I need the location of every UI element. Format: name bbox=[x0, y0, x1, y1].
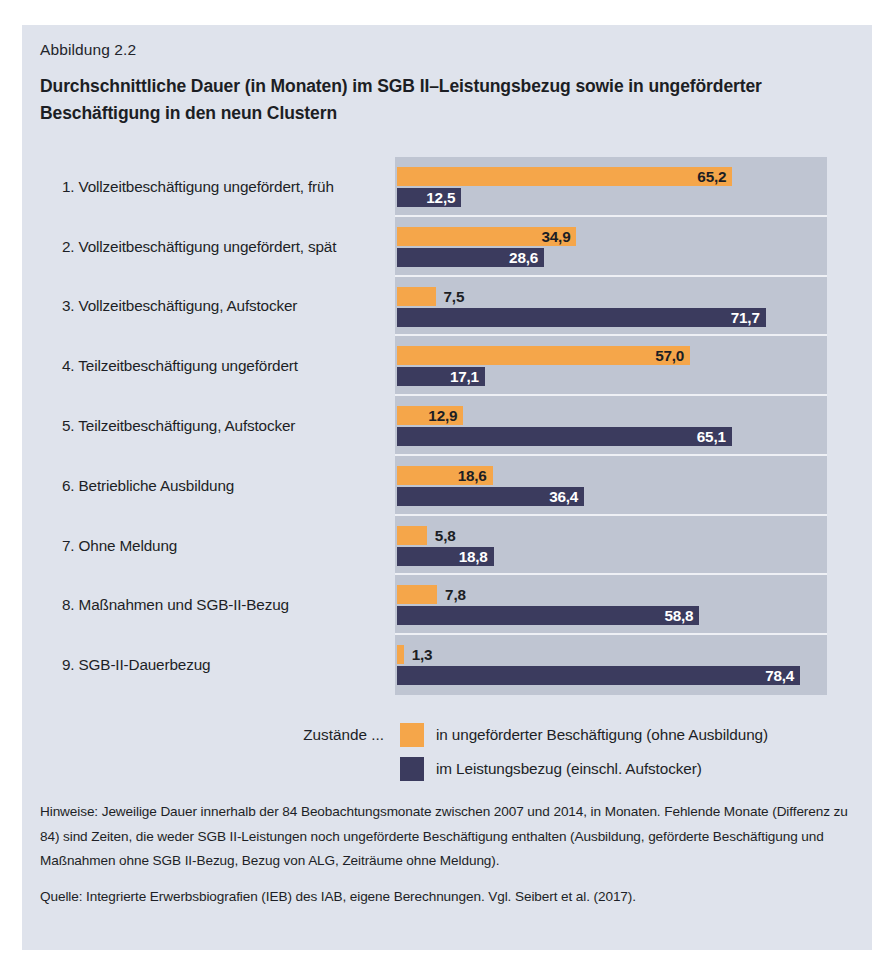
chart-row: 8. Maßnahmen und SGB-II-Bezug7,858,8 bbox=[22, 575, 872, 635]
row-bars: 57,017,1 bbox=[397, 336, 857, 396]
bar-leistungsbezug bbox=[397, 666, 800, 685]
category-label: 3. Vollzeitbeschäftigung, Aufstocker bbox=[62, 297, 387, 315]
bar-ungefoerderte-beschaeftigung bbox=[397, 167, 732, 186]
category-label: 9. SGB-II-Dauerbezug bbox=[62, 656, 387, 674]
figure-notes: Hinweise: Jeweilige Dauer innerhalb der … bbox=[40, 800, 852, 920]
bar-value-label: 65,1 bbox=[686, 427, 726, 446]
bar-ungefoerderte-beschaeftigung bbox=[397, 585, 437, 604]
figure-number: Abbildung 2.2 bbox=[40, 41, 136, 59]
bar-value-label: 12,5 bbox=[415, 188, 455, 207]
chart-row: 3. Vollzeitbeschäftigung, Aufstocker7,57… bbox=[22, 277, 872, 337]
legend-label-ungefoerderte-beschaeftigung: in ungeförderter Beschäftigung (ohne Aus… bbox=[436, 726, 768, 744]
row-bars: 5,818,8 bbox=[397, 516, 857, 576]
category-label: 1. Vollzeitbeschäftigung ungefördert, fr… bbox=[62, 178, 387, 196]
bar-leistungsbezug bbox=[397, 427, 732, 446]
bar-value-label: 65,2 bbox=[686, 167, 726, 186]
note-quelle: Quelle: Integrierte Erwerbsbiografien (I… bbox=[40, 885, 852, 910]
bar-value-label: 34,9 bbox=[530, 227, 570, 246]
row-bars: 34,928,6 bbox=[397, 217, 857, 277]
chart-row: 6. Betriebliche Ausbildung18,636,4 bbox=[22, 456, 872, 516]
bar-value-label: 57,0 bbox=[644, 346, 684, 365]
chart-row: 4. Teilzeitbeschäftigung ungefördert57,0… bbox=[22, 336, 872, 396]
note-hinweise: Hinweise: Jeweilige Dauer innerhalb der … bbox=[40, 800, 852, 874]
category-label: 4. Teilzeitbeschäftigung ungefördert bbox=[62, 357, 387, 375]
bar-value-label: 1,3 bbox=[412, 645, 433, 664]
figure-title: Durchschnittliche Dauer (in Monaten) im … bbox=[40, 73, 840, 127]
bar-value-label: 71,7 bbox=[720, 308, 760, 327]
bar-value-label: 18,8 bbox=[448, 547, 488, 566]
chart-row: 5. Teilzeitbeschäftigung, Aufstocker12,9… bbox=[22, 396, 872, 456]
category-label: 8. Maßnahmen und SGB-II-Bezug bbox=[62, 596, 387, 614]
category-label: 6. Betriebliche Ausbildung bbox=[62, 477, 387, 495]
row-bars: 7,858,8 bbox=[397, 575, 857, 635]
bar-ungefoerderte-beschaeftigung bbox=[397, 645, 404, 664]
bar-value-label: 12,9 bbox=[417, 406, 457, 425]
bar-leistungsbezug bbox=[397, 308, 766, 327]
legend-prefix-label: Zustände ... bbox=[244, 726, 384, 744]
category-label: 7. Ohne Meldung bbox=[62, 537, 387, 555]
chart-row: 9. SGB-II-Dauerbezug1,378,4 bbox=[22, 635, 872, 695]
bar-ungefoerderte-beschaeftigung bbox=[397, 287, 436, 306]
bar-value-label: 7,5 bbox=[444, 287, 465, 306]
row-bars: 1,378,4 bbox=[397, 635, 857, 695]
legend-label-leistungsbezug: im Leistungsbezug (einschl. Aufstocker) bbox=[436, 760, 702, 778]
bar-value-label: 78,4 bbox=[754, 666, 794, 685]
legend-swatch-ungefoerderte-beschaeftigung bbox=[400, 723, 424, 747]
bar-chart: 1. Vollzeitbeschäftigung ungefördert, fr… bbox=[22, 157, 872, 695]
figure-panel: Abbildung 2.2 Durchschnittliche Dauer (i… bbox=[22, 25, 872, 950]
row-bars: 18,636,4 bbox=[397, 456, 857, 516]
chart-row: 7. Ohne Meldung5,818,8 bbox=[22, 516, 872, 576]
row-bars: 7,571,7 bbox=[397, 277, 857, 337]
row-bars: 65,212,5 bbox=[397, 157, 857, 217]
chart-row: 2. Vollzeitbeschäftigung ungefördert, sp… bbox=[22, 217, 872, 277]
bar-value-label: 28,6 bbox=[498, 248, 538, 267]
bar-value-label: 7,8 bbox=[445, 585, 466, 604]
bar-value-label: 17,1 bbox=[439, 367, 479, 386]
bar-ungefoerderte-beschaeftigung bbox=[397, 526, 427, 545]
category-label: 2. Vollzeitbeschäftigung ungefördert, sp… bbox=[62, 238, 387, 256]
category-label: 5. Teilzeitbeschäftigung, Aufstocker bbox=[62, 417, 387, 435]
chart-row: 1. Vollzeitbeschäftigung ungefördert, fr… bbox=[22, 157, 872, 217]
row-bars: 12,965,1 bbox=[397, 396, 857, 456]
bar-value-label: 58,8 bbox=[653, 606, 693, 625]
bar-value-label: 18,6 bbox=[447, 466, 487, 485]
bar-value-label: 5,8 bbox=[435, 526, 456, 545]
legend-swatch-leistungsbezug bbox=[400, 757, 424, 781]
bar-value-label: 36,4 bbox=[538, 487, 578, 506]
chart-legend: Zustände ... in ungeförderter Beschäftig… bbox=[22, 715, 872, 787]
